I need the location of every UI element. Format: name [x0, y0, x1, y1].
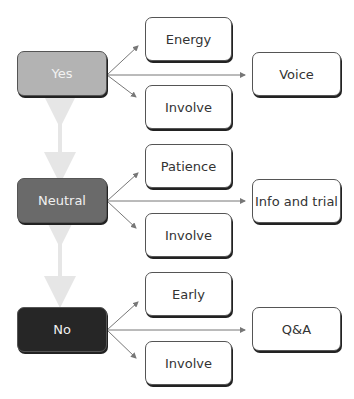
option-label: Involve: [165, 228, 212, 243]
level-yes: Yes: [17, 51, 107, 96]
option-label: Involve: [165, 100, 212, 115]
result-label: Q&A: [282, 322, 311, 337]
result-info-and-trial: Info and trial: [252, 179, 341, 223]
result-label: Voice: [279, 67, 314, 82]
option-patience: Patience: [145, 144, 232, 188]
option-involve-1: Involve: [145, 85, 232, 129]
option-early: Early: [145, 272, 232, 316]
result-voice: Voice: [252, 52, 341, 96]
option-energy: Energy: [145, 17, 232, 61]
option-label: Energy: [166, 32, 212, 47]
result-qa: Q&A: [252, 307, 341, 351]
option-label: Early: [172, 287, 205, 302]
option-involve-2: Involve: [145, 213, 232, 257]
level-label: Yes: [52, 66, 73, 81]
level-label: Neutral: [38, 193, 86, 208]
option-involve-3: Involve: [145, 341, 232, 385]
level-no: No: [17, 307, 107, 352]
option-label: Patience: [161, 159, 216, 174]
option-label: Involve: [165, 356, 212, 371]
result-label: Info and trial: [255, 194, 338, 209]
level-label: No: [53, 322, 71, 337]
level-neutral: Neutral: [17, 178, 107, 223]
